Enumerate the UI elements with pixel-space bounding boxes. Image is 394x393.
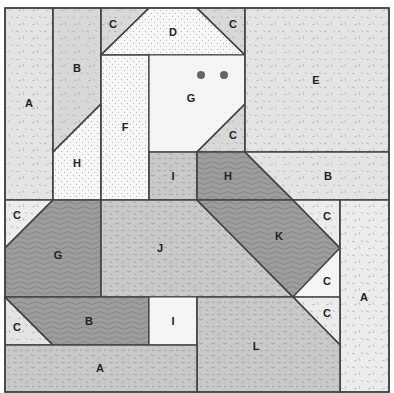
- piece-label: H: [73, 157, 81, 169]
- piece-label: B: [73, 62, 81, 74]
- piece-label: C: [109, 18, 117, 30]
- piece-label: H: [224, 170, 232, 182]
- piece-label: I: [171, 315, 174, 327]
- eye-dot-icon: [197, 71, 205, 79]
- piece-label: D: [169, 26, 177, 38]
- piece-label: B: [324, 170, 332, 182]
- piece-label: C: [323, 307, 331, 319]
- piece-label: B: [85, 315, 93, 327]
- piece-label: K: [275, 230, 283, 242]
- piece-label: C: [13, 321, 21, 333]
- piece-label: C: [229, 129, 237, 141]
- piece-label: E: [312, 74, 319, 86]
- piece-label: J: [157, 242, 163, 254]
- piece-label: F: [122, 121, 129, 133]
- piece-label: G: [54, 249, 63, 261]
- pieces-layer: [5, 8, 389, 392]
- piece-label: I: [171, 170, 174, 182]
- piece-label: C: [323, 275, 331, 287]
- piece-label: C: [323, 210, 331, 222]
- eye-dot-icon: [220, 71, 228, 79]
- piece-label: C: [229, 18, 237, 30]
- piece-label: C: [13, 209, 21, 221]
- piece-label: G: [187, 92, 196, 104]
- piece-label: A: [25, 97, 33, 109]
- piece-label: A: [360, 291, 368, 303]
- piece-label: A: [96, 362, 104, 374]
- piece-label: L: [253, 340, 260, 352]
- quilt-block-diagram: ABHCDCFGCEIHBCGJKCCACBICLA: [0, 0, 394, 393]
